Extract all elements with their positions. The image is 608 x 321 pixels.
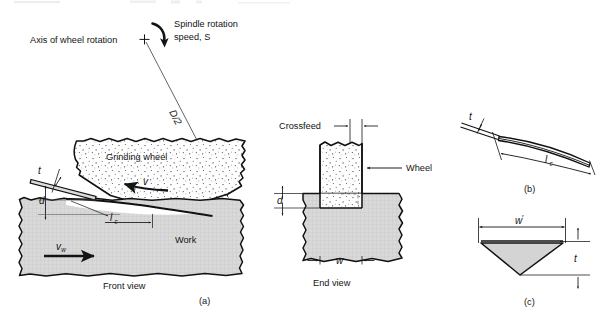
grinding-wheel-body [74,139,245,208]
end-view-group: Crossfeed d [274,119,432,288]
grinding-wheel-label: Grinding wheel [106,152,167,162]
front-view-group: Axis of wheel rotation Spindle rotation … [19,19,245,306]
chip-side-view-part-label: (b) [524,184,535,194]
spindle-rotation-label-line2: speed, S [174,32,210,42]
spindle-rotation-arrow-icon [153,24,169,48]
chip-cross-section-group: w ′ t (c) [479,213,591,307]
chip-b-contact-length-label-group: l c [545,154,554,167]
chip-c-thickness-label: t [574,253,578,264]
chip-thickness-label: t [38,165,42,176]
spindle-rotation-label-line1: Spindle rotation [174,19,238,29]
end-view-wheel-engaged [321,194,362,208]
end-view-wheel-label: Wheel [406,163,432,173]
crossfeed-dimension [334,119,378,146]
grinding-operation-diagram: Axis of wheel rotation Spindle rotation … [0,0,608,321]
chip-cross-section-part-label: (c) [524,297,535,307]
end-view-depth-label: d [277,195,283,206]
front-view-caption: Front view [103,281,146,291]
chip-b-contact-length-subscript: c [550,160,554,167]
chip-b-thickness-label: t [469,111,473,122]
chip-side-view-group: t l c (b) [461,111,596,194]
axis-crosshair-icon [140,34,150,44]
end-view-width-label: w [336,255,344,266]
end-view-caption: End view [313,278,351,288]
chip-c-width-prime: ′ [522,213,524,223]
front-view-part-label: (a) [199,296,210,306]
work-velocity-subscript: w [61,246,66,253]
axis-of-wheel-rotation-label: Axis of wheel rotation [30,35,117,45]
crossfeed-label: Crossfeed [279,121,321,131]
page-header-remnant [14,1,290,4]
figure-root: Axis of wheel rotation Spindle rotation … [0,0,608,321]
chip-c-triangle [481,243,563,275]
work-label: Work [175,235,197,245]
depth-of-cut-label: d [39,195,45,206]
chip-c-width-label-group: w ′ [515,213,524,226]
